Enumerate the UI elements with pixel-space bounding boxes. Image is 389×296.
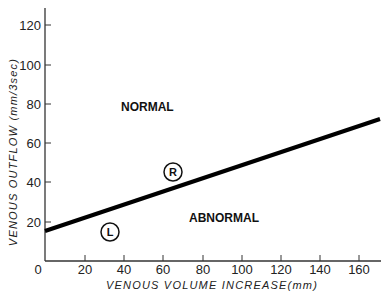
x-tick-label: 40 bbox=[117, 262, 131, 277]
x-tick-label: 160 bbox=[348, 262, 370, 277]
chart: 120 100 80 60 40 20 0 20 40 60 80 100 12… bbox=[0, 0, 389, 296]
svg-text:L: L bbox=[107, 226, 114, 238]
right-leg-marker: R bbox=[164, 163, 182, 181]
y-axis-label: VENOUS OUTFLOW (mm/3sec) bbox=[7, 58, 19, 246]
x-tick-label: 120 bbox=[270, 262, 292, 277]
y-tick-label: 100 bbox=[19, 58, 41, 73]
x-tick-label: 60 bbox=[156, 262, 170, 277]
abnormal-region-label: ABNORMAL bbox=[189, 211, 259, 225]
left-leg-marker: L bbox=[101, 223, 119, 241]
y-tick-label: 80 bbox=[27, 97, 41, 112]
y-tick-label: 40 bbox=[27, 175, 41, 190]
x-tick-label: 20 bbox=[78, 262, 92, 277]
y-tick-label: 20 bbox=[27, 215, 41, 230]
y-ticks: 120 100 80 60 40 20 bbox=[19, 18, 51, 230]
x-axis-label: VENOUS VOLUME INCREASE(mm) bbox=[106, 279, 318, 291]
x-tick-label: 80 bbox=[196, 262, 210, 277]
normal-region-label: NORMAL bbox=[121, 100, 174, 114]
svg-text:R: R bbox=[169, 166, 177, 178]
x-tick-label: 0 bbox=[34, 262, 41, 277]
x-tick-label: 100 bbox=[231, 262, 253, 277]
y-tick-label: 120 bbox=[19, 18, 41, 33]
x-ticks: 0 20 40 60 80 100 120 140 160 bbox=[34, 255, 369, 277]
x-tick-label: 140 bbox=[309, 262, 331, 277]
y-tick-label: 60 bbox=[27, 136, 41, 151]
